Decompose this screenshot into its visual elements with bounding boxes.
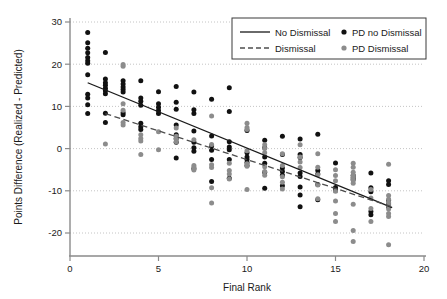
- data-point: [227, 171, 232, 176]
- data-point: [103, 50, 108, 55]
- data-point: [386, 162, 391, 167]
- y-tick-label-0: 0: [57, 143, 62, 154]
- data-point: [368, 212, 373, 217]
- x-tick-label-5: 5: [156, 263, 161, 274]
- data-point: [333, 173, 338, 178]
- data-point: [262, 173, 267, 178]
- data-point: [121, 64, 126, 69]
- data-point: [121, 108, 126, 113]
- data-point: [227, 147, 232, 152]
- y-tick-label--20: -20: [48, 227, 62, 238]
- data-point: [103, 111, 108, 116]
- data-point: [85, 40, 90, 45]
- data-point: [227, 161, 232, 166]
- legend-label-pd-no-dismissal-points: PD no Dismissal: [352, 27, 422, 38]
- x-tick-label-0: 0: [67, 263, 72, 274]
- data-point: [280, 187, 285, 192]
- data-point: [262, 138, 267, 143]
- data-point: [174, 100, 179, 105]
- data-point: [85, 61, 90, 66]
- data-point: [351, 181, 356, 186]
- data-point: [333, 167, 338, 172]
- data-point: [368, 206, 373, 211]
- data-point: [191, 149, 196, 154]
- data-point: [85, 111, 90, 116]
- data-point: [156, 147, 161, 152]
- data-point: [280, 134, 285, 139]
- data-point: [174, 84, 179, 89]
- data-point: [209, 185, 214, 190]
- data-point: [174, 155, 179, 160]
- data-point: [298, 193, 303, 198]
- data-point: [85, 72, 90, 77]
- x-tick-label-15: 15: [330, 263, 341, 274]
- y-tick-label-30: 30: [51, 16, 62, 27]
- data-point: [103, 120, 108, 125]
- data-point: [333, 160, 338, 165]
- y-tick-label-20: 20: [51, 59, 62, 70]
- data-point: [262, 186, 267, 191]
- data-point: [280, 174, 285, 179]
- data-point: [138, 152, 143, 157]
- data-point: [209, 142, 214, 147]
- data-point: [191, 128, 196, 133]
- data-point: [209, 148, 214, 153]
- data-point: [368, 219, 373, 224]
- data-point: [280, 151, 285, 156]
- data-point: [209, 179, 214, 184]
- data-point: [333, 178, 338, 183]
- data-point: [298, 204, 303, 209]
- data-point: [103, 91, 108, 96]
- data-point: [209, 201, 214, 206]
- data-point: [85, 50, 90, 55]
- data-point: [209, 165, 214, 170]
- data-point: [386, 214, 391, 219]
- data-point: [138, 78, 143, 83]
- data-point: [121, 90, 126, 95]
- data-point: [174, 139, 179, 144]
- data-point: [386, 242, 391, 247]
- chart-canvas: 3020100-10-2005101520Final RankPoints Di…: [0, 0, 447, 299]
- y-axis-title: Points Difference (Realized - Predicted): [13, 49, 24, 224]
- data-point: [298, 185, 303, 190]
- data-point: [298, 142, 303, 147]
- data-point: [209, 97, 214, 102]
- data-point: [386, 182, 391, 187]
- y-tick-label--10: -10: [48, 185, 62, 196]
- data-point: [138, 139, 143, 144]
- data-point: [298, 136, 303, 141]
- data-point: [85, 46, 90, 51]
- data-point: [351, 239, 356, 244]
- legend: No DismissalDismissalPD no DismissalPD D…: [232, 18, 426, 59]
- data-point: [174, 125, 179, 130]
- data-point: [280, 180, 285, 185]
- data-point: [315, 165, 320, 170]
- data-point: [245, 187, 250, 192]
- data-point: [368, 187, 373, 192]
- legend-label-dismissal-line: Dismissal: [275, 43, 316, 54]
- data-point: [245, 127, 250, 132]
- data-point: [245, 164, 250, 169]
- scatter-plot-figure: 3020100-10-2005101520Final RankPoints Di…: [0, 0, 447, 299]
- x-axis-title: Final Rank: [223, 282, 272, 293]
- data-point: [156, 89, 161, 94]
- data-point: [191, 90, 196, 95]
- data-point: [209, 114, 214, 119]
- data-point: [298, 160, 303, 165]
- data-point: [174, 107, 179, 112]
- data-point: [227, 85, 232, 90]
- data-point: [103, 141, 108, 146]
- legend-label-pd-dismissal-points: PD Dismissal: [352, 43, 408, 54]
- data-point: [227, 109, 232, 114]
- y-tick-label-10: 10: [51, 101, 62, 112]
- data-point: [333, 198, 338, 203]
- legend-marker-pd-dismissal-points: [341, 45, 346, 50]
- data-point: [121, 112, 126, 117]
- data-point: [138, 127, 143, 132]
- data-point: [121, 122, 126, 127]
- data-point: [298, 155, 303, 160]
- data-point: [351, 228, 356, 233]
- data-point: [85, 30, 90, 35]
- data-point: [351, 202, 356, 207]
- data-point: [191, 111, 196, 116]
